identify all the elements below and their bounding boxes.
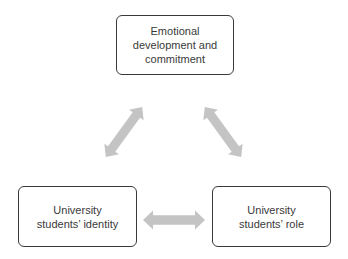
arrow-top-left: [98, 102, 149, 163]
node-students-identity: University students’ identity: [18, 186, 137, 247]
node-label-line: development and: [133, 38, 217, 52]
node-label-line: University: [239, 203, 304, 217]
node-label-line: commitment: [133, 52, 217, 66]
node-label-line: students’ identity: [37, 217, 119, 231]
arrow-top-right: [197, 102, 248, 163]
node-label-line: students’ role: [239, 217, 304, 231]
node-label-line: University: [37, 203, 119, 217]
node-label-line: Emotional: [133, 24, 217, 38]
arrow-left-right: [143, 211, 205, 230]
node-students-role: University students’ role: [212, 186, 331, 247]
node-emotional-development: Emotional development and commitment: [116, 15, 234, 75]
